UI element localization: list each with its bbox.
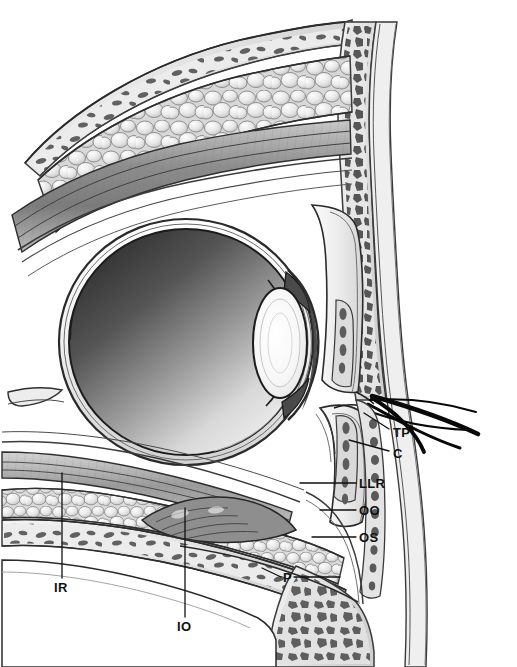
label-tp: TP bbox=[393, 426, 410, 439]
lens bbox=[253, 288, 307, 398]
label-ir: IR bbox=[54, 581, 68, 594]
label-c: C bbox=[393, 447, 403, 460]
label-os: OS bbox=[359, 531, 378, 544]
label-io: IO bbox=[177, 620, 191, 633]
label-llr: LLR bbox=[359, 477, 385, 490]
label-oo: OO bbox=[359, 504, 380, 517]
orbit-sagittal-section-illustration bbox=[0, 0, 517, 667]
anatomical-figure: TP C LLR OO OS P IR IO bbox=[0, 0, 517, 667]
label-p: P bbox=[283, 571, 292, 584]
